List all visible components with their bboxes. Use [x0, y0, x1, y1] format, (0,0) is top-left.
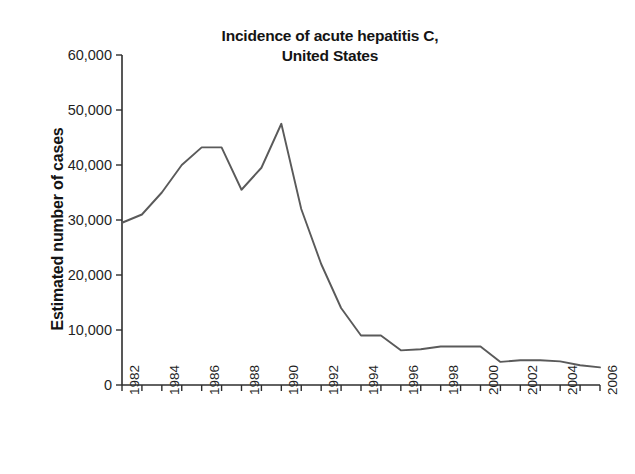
- chart-figure: Incidence of acute hepatitis C, United S…: [0, 0, 635, 474]
- chart-axes: [116, 55, 600, 391]
- data-series-line: [122, 124, 600, 368]
- chart-plot-area: [0, 0, 635, 474]
